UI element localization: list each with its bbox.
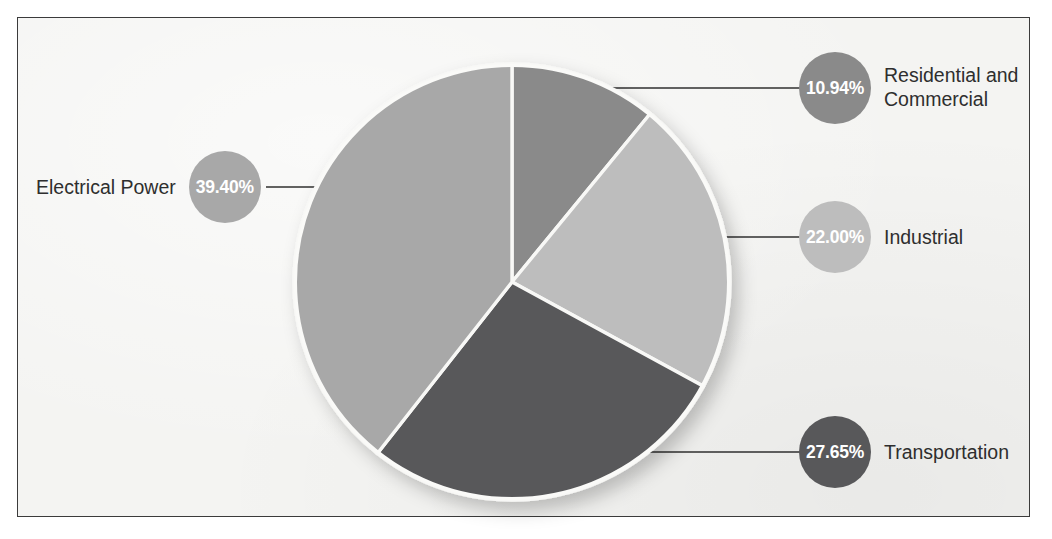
callout-industrial[interactable]: 22.00% Industrial	[799, 201, 963, 273]
callout-label-line1: Residential and	[884, 64, 1052, 88]
callout-label-industrial: Industrial	[884, 226, 963, 249]
percent-badge-residential-and-commercial: 10.94%	[799, 52, 871, 124]
percent-badge-electrical-power: 39.40%	[189, 151, 261, 223]
callout-residential-and-commercial[interactable]: 10.94% Residential and Commercial	[799, 52, 1052, 124]
callout-label-transportation: Transportation	[884, 441, 1009, 464]
pie-body	[294, 64, 730, 500]
percent-badge-industrial: 22.00%	[799, 201, 871, 273]
callout-label-line2: Commercial	[884, 88, 1052, 112]
callout-electrical-power[interactable]: Electrical Power 39.40%	[36, 151, 261, 223]
percent-badge-transportation: 27.65%	[799, 416, 871, 488]
pie-chart-figure: 10.94% Residential and Commercial 22.00%…	[0, 0, 1052, 539]
callout-label-electrical-power: Electrical Power	[36, 176, 176, 199]
callout-label-residential-and-commercial: Residential and Commercial	[884, 64, 1052, 112]
callout-transportation[interactable]: 27.65% Transportation	[799, 416, 1009, 488]
